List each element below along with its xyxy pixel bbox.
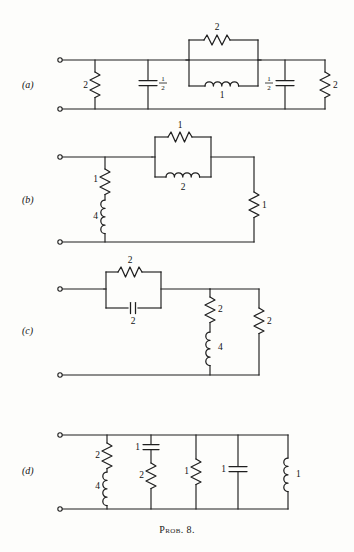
panel-d-input-terminal-bottom	[58, 507, 62, 511]
panel-b-output-resistor-label: 1	[262, 200, 267, 210]
panel-c-output-resistor-label: 2	[267, 316, 272, 326]
panel-c-input-terminal-bottom	[58, 373, 62, 377]
panel-b-block-inductor-label: 2	[181, 182, 186, 192]
panel-b-shunt-inductor	[101, 200, 105, 242]
panel-b-shunt-inductor-label: 4	[93, 211, 98, 221]
panel-b: 1 4 1 2	[22, 120, 267, 244]
panel-c: 2 2 2 4 2 (c)	[22, 255, 272, 377]
panel-d-branch5-inductor	[284, 435, 288, 509]
panel-b-block-resistor-label: 1	[178, 120, 183, 130]
panel-d-branch1-resistor-label: 2	[95, 450, 100, 460]
panel-b-series-parallel-block	[152, 132, 254, 177]
panel-d-branch4-capacitor	[229, 435, 247, 509]
panel-d-branch2-resistor-label: 2	[139, 470, 144, 480]
panel-c-output-resistor	[254, 289, 264, 375]
panel-a-shunt-capacitor-left-label: 1 2	[159, 75, 167, 92]
panel-a-block-inductor-label: 1	[220, 90, 225, 100]
panel-c-shunt-inductor	[206, 332, 210, 375]
svg-text:1: 1	[161, 75, 165, 83]
panel-b-input-terminal-top	[58, 155, 62, 159]
svg-text:1: 1	[267, 75, 271, 83]
figure-sheet: 2 1 2	[0, 0, 354, 552]
panel-d-branch1-inductor-label: 4	[95, 481, 100, 491]
panel-a-block-resistor-label: 2	[215, 22, 220, 32]
panel-a-shunt-resistor-right	[320, 60, 330, 109]
panel-d-branch1-inductor	[103, 472, 107, 509]
panel-d-branch1-resistor	[102, 435, 112, 472]
panel-b-caption: (b)	[22, 194, 34, 206]
panel-c-input-terminal-top	[58, 287, 62, 291]
panel-a-shunt-resistor-right-label: 2	[333, 80, 338, 90]
svg-text:2: 2	[267, 84, 271, 92]
panel-d-branch2-resistor	[146, 463, 156, 509]
panel-d: 2 4 1 2 1	[22, 433, 301, 511]
panel-d-input-terminal-top	[58, 433, 62, 437]
panel-a-input-terminal-top	[58, 58, 62, 62]
figure-caption: Prob. 8.	[0, 524, 354, 535]
panel-a-block-resistor	[204, 35, 230, 45]
panel-a-block-inductor	[205, 82, 239, 86]
panel-d-branch3-resistor	[191, 435, 201, 509]
panel-b-block-inductor	[166, 173, 200, 177]
panel-d-caption: (d)	[22, 465, 34, 477]
panel-b-input-terminal-bottom	[58, 240, 62, 244]
panel-b-shunt-resistor-label: 1	[93, 174, 98, 184]
panel-c-block-capacitor-label: 2	[131, 316, 136, 326]
panel-a-shunt-capacitor-right-label: 1 2	[265, 75, 273, 92]
panel-d-branch3-resistor-label: 1	[184, 466, 189, 476]
panel-b-output-resistor	[249, 157, 259, 242]
panel-c-shunt-resistor-label: 2	[218, 304, 223, 314]
circuit-figure: 2 1 2	[0, 0, 354, 552]
panel-b-block-resistor	[168, 132, 192, 142]
panel-c-block-capacitor	[131, 303, 136, 314]
svg-text:2: 2	[161, 84, 165, 92]
panel-a-shunt-resistor-left-label: 2	[83, 80, 88, 90]
panel-a-shunt-resistor-left	[90, 60, 100, 109]
panel-a-caption: (a)	[22, 79, 34, 91]
panel-d-branch5-inductor-label: 1	[296, 469, 301, 479]
panel-d-branch2-capacitor	[143, 435, 159, 463]
panel-c-caption: (c)	[22, 325, 34, 337]
panel-c-block-resistor	[118, 267, 142, 277]
panel-a-shunt-capacitor-left	[139, 60, 157, 109]
panel-d-branch2-capacitor-label: 1	[135, 442, 140, 452]
panel-c-shunt-inductor-label: 4	[218, 342, 223, 352]
panel-c-shunt-resistor	[205, 289, 215, 332]
panel-a: 2 1 2	[22, 22, 338, 111]
panel-c-block-resistor-label: 2	[128, 255, 133, 265]
panel-a-shunt-capacitor-right	[276, 60, 294, 109]
panel-a-input-terminal-bottom	[58, 107, 62, 111]
panel-b-shunt-resistor	[100, 157, 110, 200]
panel-d-branch4-capacitor-label: 1	[221, 464, 226, 474]
panel-c-series-parallel-block	[104, 267, 210, 314]
